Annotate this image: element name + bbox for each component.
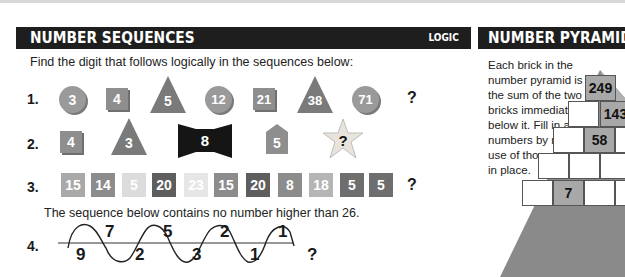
pyramid-brick[interactable] — [553, 127, 584, 153]
seq3-block: 15 — [61, 173, 85, 197]
seq3-block: 5 — [369, 173, 393, 197]
number-pyramid-header: NUMBER PYRAMID — [478, 27, 625, 49]
top-rule — [0, 0, 625, 3]
wave-top-number: 2 — [220, 222, 229, 242]
wave-bottom-number: 3 — [192, 245, 201, 265]
pyramid-brick[interactable]: 143 — [600, 101, 625, 127]
seq1-triangle: 5 — [150, 76, 186, 114]
seq3-block: 18 — [309, 173, 333, 197]
seq3-block: 15 — [214, 173, 238, 197]
seq1-square: 21 — [253, 88, 275, 110]
pyramid-brick[interactable] — [600, 153, 625, 179]
seq2-bowtie: 8 — [178, 124, 232, 158]
wave-top-number: 5 — [163, 222, 172, 242]
sequence-2-label: 2. — [27, 136, 39, 152]
pyramid-brick[interactable]: 249 — [585, 75, 616, 101]
seq1-circle: 71 — [352, 86, 379, 113]
seq3-block: 8 — [278, 173, 302, 197]
wave-top-number: 1 — [278, 222, 287, 242]
wave-bottom-number: 2 — [135, 245, 144, 265]
seq1-circle: 12 — [205, 86, 232, 113]
instructions: Find the digit that follows logically in… — [30, 55, 353, 69]
seq2-square: 4 — [60, 131, 82, 153]
pyramid-brick[interactable] — [569, 153, 600, 179]
seq2-star: ? — [322, 118, 364, 160]
seq3-block: 20 — [152, 173, 176, 197]
seq3-block: 5 — [340, 173, 364, 197]
seq3-block: 14 — [91, 173, 115, 197]
pyramid-brick[interactable] — [522, 180, 553, 206]
pyramid-brick[interactable] — [615, 180, 625, 206]
section-tag: LOGIC — [429, 32, 459, 43]
seq3-answer[interactable]: ? — [407, 176, 417, 194]
pyramid-brick[interactable] — [615, 127, 625, 153]
sine-wave — [58, 218, 298, 268]
pyramid-brick[interactable] — [568, 101, 599, 127]
seq1-triangle: 38 — [297, 76, 333, 114]
pyramid-brick[interactable] — [538, 153, 569, 179]
seq3-block: 20 — [246, 173, 270, 197]
number-sequences-header: NUMBER SEQUENCES LOGIC — [16, 27, 471, 49]
seq1-square: 4 — [106, 88, 128, 110]
seq2-triangle: 3 — [111, 118, 147, 156]
sequence-4-label: 4. — [27, 238, 39, 254]
sequence-1-label: 1. — [27, 91, 39, 107]
pyramid-brick[interactable]: 58 — [584, 127, 615, 153]
wave-bottom-number: 1 — [250, 245, 259, 265]
pyramid-brick[interactable] — [584, 180, 615, 206]
wave-answer[interactable]: ? — [307, 245, 317, 265]
seq1-circle: 3 — [59, 86, 86, 113]
section-title: NUMBER SEQUENCES — [30, 29, 195, 47]
wave-top-number: 7 — [105, 222, 114, 242]
wave-bottom-number: 9 — [76, 245, 85, 265]
seq2-pentagon: 5 — [266, 124, 288, 154]
seq3-block: 23 — [184, 173, 208, 197]
seq3-block: 5 — [122, 173, 146, 197]
sequence-3-label: 3. — [27, 179, 39, 195]
section-title: NUMBER PYRAMID — [488, 29, 625, 47]
pyramid-brick[interactable]: 7 — [553, 180, 584, 206]
seq1-answer[interactable]: ? — [407, 89, 417, 107]
